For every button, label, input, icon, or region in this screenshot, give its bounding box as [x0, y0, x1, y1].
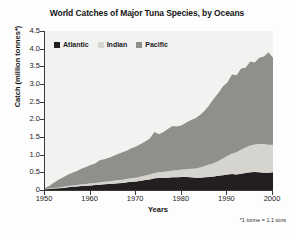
legend-swatch-icon	[54, 42, 60, 48]
legend-label: Atlantic	[63, 41, 89, 48]
legend-item-indian[interactable]: Indian	[98, 41, 128, 48]
legend-swatch-icon	[136, 42, 142, 48]
chart-footnote: *1 tonne = 1.1 tons	[240, 217, 286, 223]
y-tick-mark	[40, 84, 44, 85]
y-tick-label: 1.5	[14, 133, 40, 141]
y-tick-mark	[40, 137, 44, 138]
x-axis-title: Years	[44, 205, 272, 214]
y-tick-mark	[40, 66, 44, 67]
x-tick-label: 1980	[161, 194, 201, 203]
y-tick-label: 1.0	[14, 151, 40, 159]
area-series-group	[45, 52, 273, 190]
y-tick-mark	[40, 155, 44, 156]
legend-label: Pacific	[145, 41, 168, 48]
plot-area	[44, 31, 273, 191]
y-tick-label: 0.5	[14, 168, 40, 176]
y-tick-label: 2.5	[14, 98, 40, 106]
x-tick-mark	[226, 191, 227, 195]
chart-legend: AtlanticIndianPacific	[54, 41, 168, 48]
chart-figure: World Catches of Major Tuna Species, by …	[0, 0, 294, 234]
x-tick-mark	[90, 191, 91, 195]
x-tick-label: 2000	[252, 194, 292, 203]
x-tick-mark	[135, 191, 136, 195]
x-tick-label: 1970	[115, 194, 155, 203]
legend-item-atlantic[interactable]: Atlantic	[54, 41, 89, 48]
x-tick-mark	[272, 191, 273, 195]
legend-label: Indian	[107, 41, 128, 48]
x-tick-mark	[181, 191, 182, 195]
y-tick-label: 2.0	[14, 115, 40, 123]
y-tick-mark	[40, 31, 44, 32]
x-tick-mark	[44, 191, 45, 195]
y-tick-mark	[40, 172, 44, 173]
y-tick-mark	[40, 49, 44, 50]
y-tick-mark	[40, 119, 44, 120]
y-tick-label: 4.5	[14, 27, 40, 35]
legend-item-pacific[interactable]: Pacific	[136, 41, 168, 48]
stacked-area-svg	[45, 31, 273, 190]
y-tick-label: 0	[14, 186, 40, 194]
chart-title: World Catches of Major Tuna Species, by …	[0, 8, 294, 18]
y-tick-label: 3.0	[14, 80, 40, 88]
x-tick-label: 1960	[70, 194, 110, 203]
legend-swatch-icon	[98, 42, 104, 48]
y-tick-label: 4.0	[14, 45, 40, 53]
x-tick-label: 1990	[206, 194, 246, 203]
y-tick-label: 3.5	[14, 62, 40, 70]
x-tick-label: 1950	[24, 194, 64, 203]
y-tick-mark	[40, 102, 44, 103]
